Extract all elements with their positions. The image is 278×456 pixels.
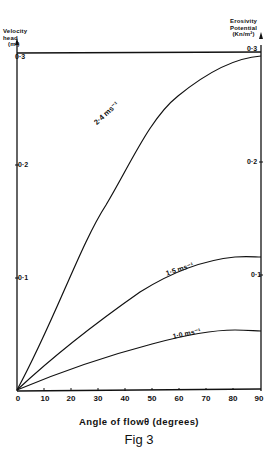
- x-tick-label: 40: [121, 394, 130, 403]
- chart-plot: [0, 0, 278, 456]
- y-tick-marks: [15, 162, 263, 278]
- left-tick-label: 0·1: [18, 274, 28, 281]
- right-axis-title-line: (Kn/m²): [230, 31, 257, 38]
- right-tick-label: 0·1: [251, 271, 261, 278]
- x-tick-label: 60: [175, 394, 184, 403]
- x-tick-label: 10: [41, 394, 50, 403]
- figure-caption: Fig 3: [0, 432, 278, 447]
- left-tick-label: 0·3: [15, 53, 25, 60]
- x-tick-label: 50: [148, 394, 157, 403]
- right-axis-arrow-icon: [259, 32, 263, 39]
- top-line: [17, 52, 261, 53]
- x-tick-label: 20: [67, 394, 76, 403]
- curve-1-0: [17, 330, 261, 390]
- right-tick-label: 0·2: [247, 158, 257, 165]
- x-tick-label: 80: [229, 394, 238, 403]
- left-axis-title: Velocity head (m ): [3, 28, 27, 48]
- left-tick-label: 0·2: [18, 161, 28, 168]
- x-axis-title: Angle of flowθ (degrees): [0, 416, 278, 427]
- right-tick-label: 0·3: [247, 45, 257, 52]
- curve-2-4: [17, 56, 261, 390]
- curve-1-5: [17, 257, 261, 390]
- right-axis-title: Erosivity Potential (Kn/m²): [230, 18, 257, 38]
- x-axis: [17, 389, 261, 391]
- x-tick-label: 90: [255, 394, 264, 403]
- right-axis-title-line: Erosivity: [230, 18, 257, 25]
- left-axis-title-line: Velocity: [3, 28, 27, 35]
- left-axis-title-line: (m ): [3, 41, 27, 48]
- x-tick-label: 30: [94, 394, 103, 403]
- x-tick-label: 0: [16, 394, 20, 403]
- x-tick-label: 70: [202, 394, 211, 403]
